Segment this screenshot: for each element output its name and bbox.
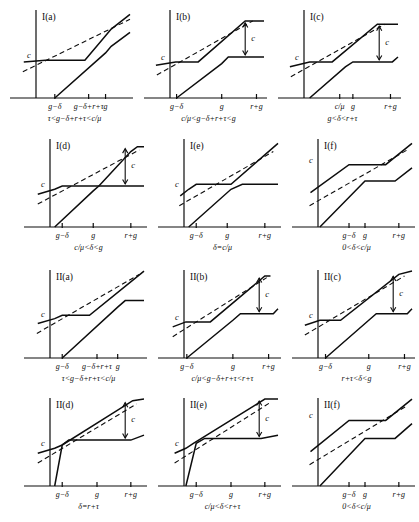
panel-condition: τ<g−δ+r+τ<c/μ [8,114,141,123]
panel-condition: c/μ<δ<r+τ [156,502,289,511]
lower-curve [189,184,278,227]
c-bracket-label: c [265,413,269,423]
x-tick-label: g [104,102,108,111]
panel-title: I(f) [324,141,337,151]
panel-condition: 0<δ<c/μ [290,243,419,252]
level-label-c: c [161,52,165,62]
x-tick-label: r+g [398,362,411,371]
panel-II-b: g−δgr+gccII(b)c/μ<g−δ+r+τ<r+τ [156,262,289,392]
x-tick-label: g−δ [180,362,193,371]
lower-curve [62,301,144,358]
x-tick-label: g [367,362,371,371]
panel-II-f: g−δgr+gcII(f)0<δ<c/μ [290,390,419,520]
panel-title: I(e) [190,141,204,151]
panel-plot: g−δgr+gc [156,131,282,249]
level-label-c: c [309,155,313,165]
panel-II-a: g−δg−δ+r+τgcII(a)τ<g−δ+r+τ<c/μ [22,262,155,392]
lower-curve [320,168,412,227]
x-tick-label: g [363,231,367,240]
x-tick-label: c/μ [335,102,345,111]
x-tick-label: g−δ [56,231,69,240]
panel-condition: 0<δ<c/μ [290,502,419,511]
panel-I-f: g−δgr+gcI(f)0<δ<c/μ [290,131,419,261]
c-bracket-label: c [131,414,135,424]
panel-title: I(c) [310,12,324,22]
level-label-c: c [175,179,179,189]
x-tick-label: g [116,362,120,371]
x-tick-label: g−δ+r+τ [74,102,105,111]
panel-condition: δ=c/μ [156,243,289,252]
level-label-c: c [309,310,313,320]
x-tick-label: g−δ [319,362,332,371]
panel-title: II(f) [324,400,340,410]
x-tick-label: g−δ+r+τ [82,362,113,371]
dashed-reference-line [157,21,253,75]
panel-plot: g−δgr+gcc [156,262,282,380]
panel-plot: g−δgr+gc [290,390,416,508]
panel-I-a: g−δg−δ+r+τgcI(a)τ<g−δ+r+τ<c/μ [8,2,141,132]
lower-curve [55,32,130,98]
level-label-c: c [41,179,45,189]
panel-title: II(a) [56,272,73,282]
upper-curve [38,147,144,195]
level-label-c: c [175,438,179,448]
lower-curve [55,186,144,227]
x-tick-label: r+g [259,231,272,240]
lower-curve [186,435,278,486]
x-tick-label: r+g [393,231,406,240]
upper-curve [156,21,264,65]
x-tick-label: g−δ [190,490,203,499]
c-bracket-label: c [399,288,403,298]
x-tick-label: r+g [259,490,272,499]
c-bracket-label: c [251,33,255,43]
dashed-reference-line [175,402,271,463]
panel-condition: δ=r+τ [22,502,155,511]
panel-condition: c/μ<δ<g [22,243,155,252]
x-tick-label: g−δ [342,490,355,499]
x-tick-label: g [91,231,95,240]
panel-condition: τ<g−δ+r+τ<c/μ [22,374,155,383]
panel-plot: g−δgr+gcc [142,2,268,120]
level-label-c: c [27,50,31,60]
c-bracket-label: c [385,37,389,47]
level-label-c: c [41,438,45,448]
panel-plot: g−δgr+gcc [22,390,148,508]
panel-condition: g<δ<r+τ [276,114,409,123]
x-tick-label: r+g [125,490,138,499]
panel-I-d: g−δgr+gccI(d)c/μ<δ<g [22,131,155,261]
upper-curve [24,14,130,62]
x-tick-label: g [225,231,229,240]
c-bracket-label: c [131,160,135,170]
x-tick-label: g [95,490,99,499]
x-tick-label: r+g [250,102,263,111]
x-tick-label: g−δ [190,231,203,240]
panel-condition: r+τ<δ<g [290,374,419,383]
dashed-reference-line [305,276,405,335]
upper-curve [38,271,144,323]
panel-plot: g−δg−δ+r+τgc [22,262,148,380]
x-tick-label: g [220,102,224,111]
panel-plot: g−δgr+gcc [22,131,148,249]
x-tick-label: g [231,362,235,371]
panel-II-c: g−δgr+gccII(c)r+τ<δ<g [290,262,419,392]
lower-curve [310,57,398,98]
upper-curve [180,143,278,195]
x-tick-label: g−δ [342,231,355,240]
x-tick-label: g−δ [56,362,69,371]
x-tick-label: g−δ [56,490,69,499]
lower-curve [187,309,278,358]
lower-curve [55,435,144,486]
panel-title: II(c) [324,272,341,282]
panel-I-b: g−δgr+gccI(b)c/μ<g−δ+r+τ<g [142,2,275,132]
lower-curve [326,309,412,358]
x-tick-label: g [351,102,355,111]
x-tick-label: r+g [393,490,406,499]
panel-condition: c/μ<g−δ+r+τ<r+τ [156,374,289,383]
x-tick-label: g [229,490,233,499]
x-tick-label: g [363,490,367,499]
x-tick-label: r+g [384,102,397,111]
upper-curve [173,276,271,327]
panel-plot: c/μgr+gcc [276,2,402,120]
panel-plot: g−δgr+gc [290,131,416,249]
